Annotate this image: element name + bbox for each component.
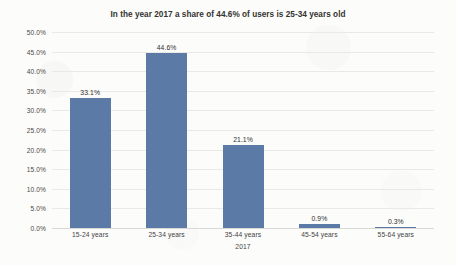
y-axis-tick-label: 25.0% [27,127,46,134]
bar-series: 33.1%44.6%21.1%0.9%0.3% [52,32,434,228]
chart-container: In the year 2017 a share of 44.6% of use… [0,0,456,265]
bar-slot: 21.1% [205,32,281,228]
x-axis-tick-labels: 15-24 years25-34 years35-44 years45-54 y… [52,231,434,238]
x-axis-title: 2017 [52,243,434,250]
y-axis-tick-label: 50.0% [27,29,46,36]
bar-value-label: 44.6% [157,44,177,51]
plot-area: 33.1%44.6%21.1%0.9%0.3% [52,32,434,228]
y-axis-tick-label: 20.0% [27,146,46,153]
x-axis-tick-label: 35-44 years [205,231,281,238]
y-axis-tick-label: 10.0% [27,185,46,192]
bar-slot: 33.1% [52,32,128,228]
x-axis-tick-label: 25-34 years [128,231,204,238]
gridline [52,228,434,229]
bar-value-label: 21.1% [233,136,253,143]
chart-title: In the year 2017 a share of 44.6% of use… [0,10,456,19]
x-axis-tick-label: 15-24 years [52,231,128,238]
y-axis-tick-label: 35.0% [27,87,46,94]
bar-slot: 44.6% [128,32,204,228]
y-axis-tick-label: 0.0% [31,225,46,232]
y-axis-tick-label: 40.0% [27,68,46,75]
bar[interactable]: 44.6% [146,53,187,228]
bar[interactable]: 0.9% [299,224,340,228]
y-axis-tick-labels: 50.0%45.0%40.0%35.0%30.0%25.0%20.0%15.0%… [0,32,46,228]
bar-value-label: 33.1% [80,89,100,96]
bar-value-label: 0.3% [388,218,404,225]
bar-slot: 0.9% [281,32,357,228]
bar-slot: 0.3% [358,32,434,228]
x-axis-tick-label: 45-54 years [281,231,357,238]
x-axis-tick-label: 55-64 years [358,231,434,238]
y-axis-tick-label: 5.0% [31,205,46,212]
y-axis-tick-label: 45.0% [27,48,46,55]
bar[interactable]: 33.1% [70,98,111,228]
y-axis-tick-label: 15.0% [27,166,46,173]
bar[interactable]: 21.1% [223,145,264,228]
bar[interactable]: 0.3% [375,227,416,229]
bar-value-label: 0.9% [311,215,327,222]
y-axis-tick-label: 30.0% [27,107,46,114]
